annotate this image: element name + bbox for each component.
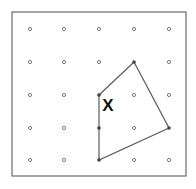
grid-dot bbox=[28, 27, 31, 30]
grid-dot bbox=[132, 27, 135, 30]
grid-dot bbox=[28, 158, 31, 161]
dot-grid-diagram: X bbox=[0, 0, 196, 189]
grid-dot bbox=[62, 27, 65, 30]
grid-dot bbox=[62, 126, 65, 129]
grid-dot bbox=[62, 93, 65, 96]
vertex-dot bbox=[97, 158, 101, 162]
grid-dot bbox=[97, 60, 100, 63]
grid-dot bbox=[167, 60, 170, 63]
grid-dot bbox=[167, 158, 170, 161]
grid-dot bbox=[132, 158, 135, 161]
grid-dot bbox=[62, 158, 65, 161]
vertex-dot bbox=[167, 126, 171, 130]
grid-dot bbox=[132, 93, 135, 96]
grid-dot bbox=[167, 93, 170, 96]
vertex-dot bbox=[132, 60, 136, 64]
grid-dot bbox=[28, 93, 31, 96]
grid-dot bbox=[62, 60, 65, 63]
grid-dot bbox=[28, 126, 31, 129]
grid-dot bbox=[132, 126, 135, 129]
vertex-dot bbox=[97, 93, 101, 97]
grid-dot bbox=[28, 60, 31, 63]
grid-dot bbox=[167, 27, 170, 30]
grid-dot bbox=[97, 27, 100, 30]
x-marker: X bbox=[102, 96, 114, 115]
vertex-dot bbox=[97, 126, 101, 130]
